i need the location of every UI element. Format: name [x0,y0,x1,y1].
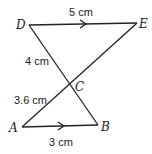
length-ac-label: 3.6 cm [14,94,47,106]
segment-ab [22,125,98,127]
length-ab-label: 3 cm [49,136,73,148]
point-a-label: A [8,121,18,135]
similar-triangles-diagram: D E C A B 5 cm 4 cm 3.6 cm 3 cm [0,0,152,154]
segment-de [29,23,137,25]
point-d-label: D [15,18,26,32]
segment-ae [22,23,137,127]
point-c-label: C [75,80,84,94]
length-de-label: 5 cm [69,6,93,18]
length-dc-label: 4 cm [25,55,49,67]
point-b-label: B [100,120,110,134]
point-e-label: E [138,17,148,31]
segment-db [29,25,98,125]
